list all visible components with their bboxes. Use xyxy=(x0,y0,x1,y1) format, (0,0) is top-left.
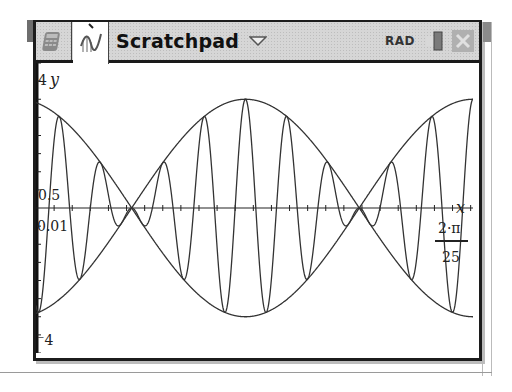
ymin-label: ⁻4 xyxy=(37,332,53,348)
yscl-label: 0.5 xyxy=(38,187,60,203)
angle-mode-indicator: RAD xyxy=(385,34,415,48)
battery-icon xyxy=(425,29,447,53)
app-window: Scratchpad RAD 4 y 0.5 0.01 ⁻4 x 2·π xyxy=(33,20,482,361)
bottom-divider xyxy=(0,372,492,373)
graph-icon xyxy=(73,22,109,62)
xmin-label: 0.01 xyxy=(37,218,68,234)
xmax-label-numerator: 2·π xyxy=(438,220,461,236)
close-icon[interactable] xyxy=(451,29,475,53)
toolbar: Scratchpad RAD xyxy=(36,22,479,60)
document-title-menu[interactable]: Scratchpad xyxy=(110,22,270,60)
ymax-label: 4 xyxy=(38,72,47,88)
calculator-icon xyxy=(36,22,72,60)
x-axis-label: x xyxy=(456,198,465,217)
tab-graphs[interactable] xyxy=(73,22,109,64)
triangle-down-icon xyxy=(249,36,267,46)
graph-area[interactable]: 4 y 0.5 0.01 ⁻4 x 2·π 25 xyxy=(36,63,473,353)
scrollbar-thumb[interactable] xyxy=(483,22,491,42)
status-area: RAD xyxy=(385,22,475,60)
function-curve-f3[interactable] xyxy=(36,99,473,312)
y-axis-label: y xyxy=(49,70,60,89)
xmax-label-denominator: 25 xyxy=(442,249,460,265)
document-title: Scratchpad xyxy=(116,30,239,52)
scrollbar[interactable] xyxy=(482,22,492,376)
tab-calculator[interactable] xyxy=(36,22,72,60)
